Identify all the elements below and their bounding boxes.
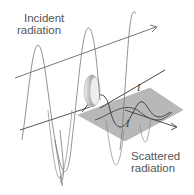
incident-label-line1: Incident xyxy=(24,12,64,24)
intensity-label-top: I xyxy=(137,82,140,93)
intensity-label-bottom: I xyxy=(126,118,129,129)
scattered-label-line2: radiation xyxy=(131,162,175,174)
incident-label-line2: radiation xyxy=(17,24,61,36)
scattered-label-line1: Scattered xyxy=(131,150,180,162)
lower-axis-line xyxy=(20,107,90,130)
scattering-diagram: Incident radiation Scattered radiation I… xyxy=(0,0,194,195)
